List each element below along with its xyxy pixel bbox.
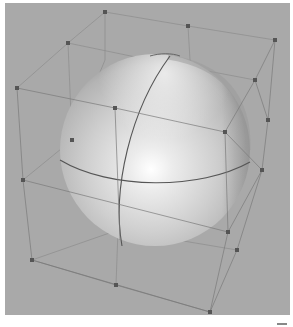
sphere [60,54,250,246]
scene-canvas [0,0,293,327]
corner-mark [277,323,287,325]
